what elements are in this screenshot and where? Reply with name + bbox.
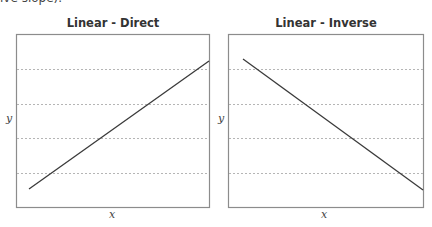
- charts-canvas: [0, 0, 432, 227]
- gridlines: [229, 70, 423, 174]
- plot-direct: [17, 35, 210, 208]
- x-axis-label-direct: x: [109, 208, 115, 221]
- gridlines: [17, 70, 209, 174]
- inverse-line: [243, 59, 423, 190]
- plot-inverse: [229, 35, 424, 208]
- direct-line: [29, 61, 209, 189]
- y-axis-label-direct: y: [6, 112, 12, 125]
- y-axis-label-inverse: y: [218, 112, 224, 125]
- x-axis-label-inverse: x: [321, 208, 327, 221]
